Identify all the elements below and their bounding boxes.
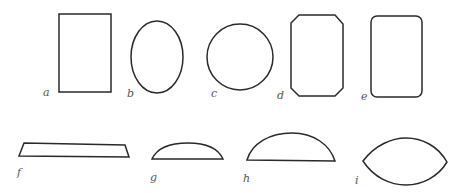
shape-a-rectangle: [59, 14, 111, 92]
shapes-figure: a b c d e f g: [0, 0, 468, 193]
shape-g-segment: [152, 143, 223, 159]
shape-d-octagon: [291, 15, 343, 96]
shape-h-segment: [247, 133, 335, 161]
label-e: e: [361, 90, 368, 103]
shape-f-group: f: [16, 143, 129, 179]
shape-c-group: c: [207, 24, 273, 100]
shape-b-group: b: [127, 21, 183, 100]
label-d: d: [277, 89, 284, 102]
label-i: i: [355, 174, 359, 187]
label-g: g: [150, 171, 157, 184]
label-b: b: [127, 87, 134, 100]
shape-h-group: h: [243, 133, 335, 185]
shape-b-ellipse: [131, 21, 183, 93]
shape-e-group: e: [361, 16, 422, 103]
shape-i-lens: [363, 138, 447, 185]
label-f: f: [16, 166, 23, 179]
shape-f-trapezoid: [19, 143, 129, 157]
shape-e-rounded-rectangle: [371, 16, 422, 97]
shape-c-circle: [207, 24, 273, 90]
shapes-canvas: a b c d e f g: [0, 0, 468, 193]
label-c: c: [211, 87, 217, 100]
shape-i-group: i: [355, 138, 447, 187]
shape-a-group: a: [43, 14, 111, 99]
label-a: a: [43, 86, 50, 99]
shape-d-group: d: [277, 15, 343, 102]
shape-g-group: g: [150, 143, 223, 184]
label-h: h: [243, 172, 250, 185]
